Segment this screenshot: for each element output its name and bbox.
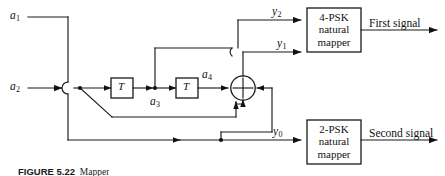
two-psk-line-1: 2-PSK <box>307 123 361 135</box>
label-y1: y1 <box>277 38 286 51</box>
modulo-adder <box>231 76 255 100</box>
figure-caption: FIGURE 5.22 Mapper <box>18 166 109 176</box>
four-psk-line-3: mapper <box>307 36 361 48</box>
label-y2: y2 <box>272 6 281 19</box>
delay-block-2-label: T <box>183 81 189 92</box>
two-psk-line-3: mapper <box>307 148 361 160</box>
two-psk-line-2: natural <box>307 135 361 147</box>
four-psk-line-2: natural <box>307 23 361 35</box>
wire-a1-to-y1 <box>28 17 68 140</box>
label-a2: a2 <box>10 81 20 94</box>
figure-caption-label: FIGURE 5.22 <box>18 166 75 176</box>
junction-dot-y0 <box>219 138 223 142</box>
label-first-signal: First signal <box>369 18 420 30</box>
wire-y2-to-mapper <box>238 20 301 48</box>
label-a1: a1 <box>10 10 20 23</box>
figure-container: a1 a2 a3 a4 y2 y1 y0 T T 4-PSK natural m… <box>0 0 445 176</box>
label-a3: a3 <box>150 96 160 109</box>
four-psk-mapper-text: 4-PSK natural mapper <box>307 11 361 48</box>
label-a4: a4 <box>202 69 212 82</box>
delay-block-1-label: T <box>118 81 124 92</box>
two-psk-mapper-text: 2-PSK natural mapper <box>307 123 361 160</box>
label-second-signal: Second signal <box>369 128 433 140</box>
figure-caption-text: Mapper <box>80 167 110 176</box>
label-y0: y0 <box>273 126 282 139</box>
four-psk-line-1: 4-PSK <box>307 11 361 23</box>
wire-upper-rail-hop <box>230 48 232 56</box>
